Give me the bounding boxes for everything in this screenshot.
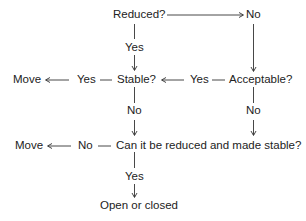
label-reduced-no: No	[246, 8, 261, 21]
arrow-yes-to-stable-left	[162, 78, 185, 83]
arrow-stable-no-to-can-reduce	[132, 120, 137, 136]
label-acceptable-yes: Yes	[190, 73, 209, 86]
label-acceptable-no: No	[246, 104, 261, 117]
node-move-can-reduce: Move	[15, 139, 43, 152]
label-can-reduce-no: No	[78, 139, 93, 152]
flowchart-canvas: Reduced? No Yes Move Yes Stable? Yes Acc…	[0, 0, 306, 221]
node-can-reduce: Can it be reduced and made stable?	[116, 139, 301, 152]
node-reduced: Reduced?	[113, 8, 165, 21]
node-move-stable: Move	[13, 73, 41, 86]
label-stable-yes: Yes	[77, 73, 96, 86]
arrow-yes-to-open-closed	[132, 184, 137, 198]
label-stable-no: No	[127, 104, 142, 117]
arrow-yes-to-move	[46, 78, 70, 83]
node-stable: Stable?	[117, 73, 156, 86]
label-reduced-yes: Yes	[125, 41, 144, 54]
arrow-yes-to-stable	[132, 55, 137, 71]
arrow-no-to-move	[48, 144, 72, 149]
arrow-acceptable-no-to-can-reduce	[251, 120, 256, 136]
label-can-reduce-yes: Yes	[125, 170, 144, 183]
arrow-no-to-acceptable	[251, 24, 256, 72]
node-open-or-closed: Open or closed	[100, 199, 178, 212]
node-acceptable: Acceptable?	[229, 73, 292, 86]
arrow-reduced-to-no	[167, 13, 244, 18]
